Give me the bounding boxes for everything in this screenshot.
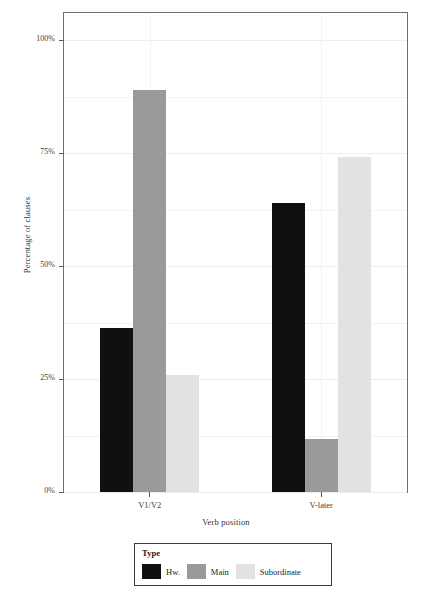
gridline-vertical — [321, 13, 322, 492]
x-tick-mark — [321, 492, 322, 497]
y-tick-mark — [59, 492, 64, 493]
y-axis-title: Percentage of clauses — [22, 135, 32, 335]
gridline-major — [64, 153, 407, 154]
y-tick-mark — [59, 266, 64, 267]
y-tick-label: 75% — [40, 147, 55, 156]
y-tick-label: 50% — [40, 260, 55, 269]
legend-label: Subordinate — [260, 567, 301, 577]
y-tick-mark — [59, 153, 64, 154]
y-tick-mark — [59, 379, 64, 380]
gridline-major — [64, 40, 407, 41]
x-tick-mark — [149, 492, 150, 497]
y-tick-label: 100% — [36, 34, 55, 43]
gridline-minor — [64, 97, 407, 98]
legend: Type Hw.MainSubordinate — [134, 543, 332, 586]
bar — [100, 328, 133, 492]
legend-swatch — [187, 564, 206, 579]
legend-swatch — [142, 564, 161, 579]
bar — [272, 203, 305, 492]
y-tick-label: 0% — [44, 486, 55, 495]
x-axis-title: Verb position — [63, 517, 389, 527]
y-tick-mark — [59, 40, 64, 41]
plot-area: 0%25%50%75%100%V1/V2V-later — [64, 13, 407, 492]
bar-chart-figure: Percentage of clauses 0%25%50%75%100%V1/… — [0, 0, 422, 597]
x-tick-label: V1/V2 — [90, 500, 210, 510]
legend-swatch — [236, 564, 255, 579]
bar — [305, 439, 338, 492]
legend-label: Main — [211, 567, 229, 577]
gridline-major — [64, 492, 407, 493]
bar — [338, 157, 371, 492]
legend-items: Hw.MainSubordinate — [142, 564, 308, 579]
legend-item[interactable]: Subordinate — [236, 564, 301, 579]
plot-panel: 0%25%50%75%100%V1/V2V-later — [63, 12, 408, 493]
legend-label: Hw. — [166, 567, 180, 577]
legend-title: Type — [142, 548, 160, 558]
y-tick-label: 25% — [40, 373, 55, 382]
bar — [166, 375, 199, 492]
legend-item[interactable]: Hw. — [142, 564, 180, 579]
legend-item[interactable]: Main — [187, 564, 229, 579]
x-tick-label: V-later — [261, 500, 381, 510]
bar — [133, 90, 166, 492]
